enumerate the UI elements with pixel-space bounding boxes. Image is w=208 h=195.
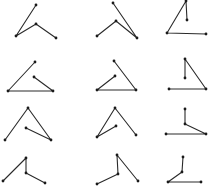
vertex-dot bbox=[35, 4, 38, 7]
vertex-dot bbox=[182, 156, 185, 159]
figure-polyline bbox=[8, 62, 53, 91]
vertex-dot bbox=[25, 127, 28, 130]
figure-polyline bbox=[16, 5, 56, 38]
vertex-dot bbox=[165, 133, 168, 136]
vertex-dot bbox=[115, 125, 118, 128]
vertex-dot bbox=[27, 107, 30, 110]
stick-figure-r1c2 bbox=[96, 2, 139, 40]
vertex-dot bbox=[52, 90, 55, 93]
figure-polyline bbox=[97, 61, 136, 90]
figure-polyline bbox=[5, 108, 51, 140]
figure-polyline bbox=[167, 1, 206, 34]
vertex-dot bbox=[117, 173, 120, 176]
stick-figure-r2c1 bbox=[7, 61, 55, 93]
vertex-dot bbox=[50, 139, 53, 142]
stick-figure-r4c1 bbox=[2, 157, 47, 185]
vertex-dot bbox=[205, 88, 208, 91]
vertex-dot bbox=[135, 134, 138, 137]
vertex-dot bbox=[184, 58, 187, 61]
vertex-dot bbox=[4, 139, 7, 142]
vertex-dot bbox=[115, 20, 118, 23]
stick-figure-r4c3 bbox=[167, 156, 203, 184]
figure-polyline bbox=[169, 59, 206, 89]
vertex-dot bbox=[167, 181, 170, 184]
stick-figure-r3c3 bbox=[165, 108, 208, 136]
vertex-dot bbox=[184, 77, 187, 80]
vertex-dot bbox=[15, 35, 18, 38]
stick-figure-r3c1 bbox=[4, 107, 53, 142]
figure-polyline bbox=[168, 157, 201, 182]
vertex-dot bbox=[55, 37, 58, 40]
stick-figure-r2c2 bbox=[96, 60, 138, 92]
vertex-dot bbox=[168, 88, 171, 91]
vertex-dot bbox=[112, 2, 115, 5]
vertex-dot bbox=[35, 23, 38, 26]
vertex-dot bbox=[25, 172, 28, 175]
vertex-dot bbox=[44, 182, 47, 185]
vertex-dot bbox=[181, 171, 184, 174]
stick-figure-r1c3 bbox=[166, 0, 208, 35]
stick-figure-r4c2 bbox=[96, 154, 140, 186]
figure-polyline bbox=[97, 155, 138, 184]
vertex-dot bbox=[2, 180, 5, 183]
vertex-dot bbox=[200, 181, 203, 184]
vertex-dot bbox=[25, 157, 28, 160]
vertex-dot bbox=[34, 61, 37, 64]
vertex-dot bbox=[166, 32, 169, 35]
vertex-dot bbox=[96, 136, 99, 139]
vertex-dot bbox=[96, 35, 99, 38]
vertex-dot bbox=[184, 108, 187, 111]
vertex-dot bbox=[136, 37, 139, 40]
stick-figure-r2c3 bbox=[168, 58, 208, 91]
vertex-dot bbox=[184, 123, 187, 126]
vertex-dot bbox=[137, 180, 140, 183]
vertex-dot bbox=[33, 76, 36, 79]
stick-figure-r1c1 bbox=[15, 4, 58, 40]
vertex-dot bbox=[135, 89, 138, 92]
vertex-dot bbox=[205, 33, 208, 36]
vertex-dot bbox=[114, 107, 117, 110]
vertex-dot bbox=[205, 133, 208, 136]
vertex-dot bbox=[116, 154, 119, 157]
vertex-dot bbox=[7, 90, 10, 93]
vertex-dot bbox=[114, 75, 117, 78]
vertex-dot bbox=[96, 89, 99, 92]
figure-polyline bbox=[97, 108, 136, 137]
stick-figure-r3c2 bbox=[96, 107, 138, 139]
figure-polyline bbox=[3, 158, 45, 183]
figure-polyline bbox=[166, 109, 206, 134]
stick-figure-grid bbox=[0, 0, 208, 195]
vertex-dot bbox=[96, 183, 99, 186]
vertex-dot bbox=[186, 19, 189, 22]
vertex-dot bbox=[113, 60, 116, 63]
